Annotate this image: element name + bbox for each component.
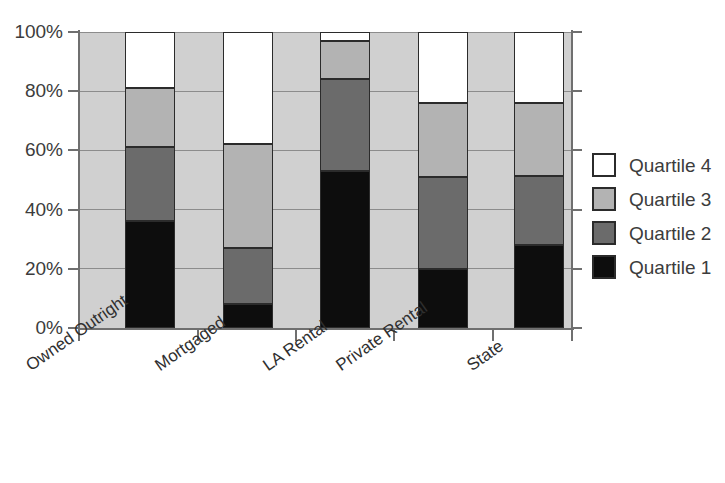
bar-segment-owned-outright-quartile-3 xyxy=(125,88,175,147)
y-axis-label-100%: 100% xyxy=(14,22,63,41)
bar-segment-owned-outright-quartile-2 xyxy=(125,147,175,221)
legend: Quartile 4Quartile 3Quartile 2Quartile 1 xyxy=(592,148,711,284)
bar-segment-private-rental-quartile-3 xyxy=(418,103,468,177)
bar-segment-owned-outright-quartile-4 xyxy=(125,32,175,88)
bar-segment-mortgaged-quartile-4 xyxy=(223,32,273,144)
bar-segment-mortgaged-quartile-1 xyxy=(223,304,273,328)
y-axis-label-40%: 40% xyxy=(25,200,63,219)
bar-segment-state-quartile-4 xyxy=(514,32,564,103)
legend-item-quartile-2[interactable]: Quartile 2 xyxy=(592,216,711,250)
y-axis-label-80%: 80% xyxy=(25,81,63,100)
x-tick-5 xyxy=(571,330,573,341)
bar-segment-private-rental-quartile-4 xyxy=(418,32,468,103)
legend-item-quartile-1[interactable]: Quartile 1 xyxy=(592,250,711,284)
legend-item-quartile-4[interactable]: Quartile 4 xyxy=(592,148,711,182)
y-axis-label-20%: 20% xyxy=(25,259,63,278)
legend-label-quartile-2: Quartile 2 xyxy=(629,224,711,243)
y-axis-label-60%: 60% xyxy=(25,140,63,159)
legend-label-quartile-4: Quartile 4 xyxy=(629,156,711,175)
right-axis-line xyxy=(571,30,573,330)
legend-swatch-quartile-4 xyxy=(592,153,616,177)
bar-segment-state-quartile-2 xyxy=(514,176,564,246)
bar-mortgaged xyxy=(223,32,273,328)
bar-segment-la-rental-quartile-4 xyxy=(320,32,370,41)
bar-segment-state-quartile-1 xyxy=(514,245,564,328)
legend-label-quartile-1: Quartile 1 xyxy=(629,258,711,277)
bar-segment-la-rental-quartile-2 xyxy=(320,79,370,171)
bar-private-rental xyxy=(418,32,468,328)
legend-label-quartile-3: Quartile 3 xyxy=(629,190,711,209)
legend-swatch-quartile-3 xyxy=(592,187,616,211)
legend-item-quartile-3[interactable]: Quartile 3 xyxy=(592,182,711,216)
x-axis-label-state: State xyxy=(464,337,506,374)
legend-swatch-quartile-1 xyxy=(592,255,616,279)
bar-segment-state-quartile-3 xyxy=(514,103,564,176)
bar-segment-mortgaged-quartile-2 xyxy=(223,248,273,304)
bar-segment-owned-outright-quartile-1 xyxy=(125,221,175,328)
bar-segment-la-rental-quartile-3 xyxy=(320,41,370,79)
bar-segment-private-rental-quartile-1 xyxy=(418,269,468,328)
chart-title xyxy=(0,0,580,5)
bar-owned-outright xyxy=(125,32,175,328)
bar-segment-la-rental-quartile-1 xyxy=(320,171,370,328)
bar-la-rental xyxy=(320,32,370,328)
bar-segment-private-rental-quartile-2 xyxy=(418,177,468,269)
y-axis-line xyxy=(78,30,80,330)
bar-segment-mortgaged-quartile-3 xyxy=(223,144,273,248)
bar-state xyxy=(514,32,564,328)
legend-swatch-quartile-2 xyxy=(592,221,616,245)
